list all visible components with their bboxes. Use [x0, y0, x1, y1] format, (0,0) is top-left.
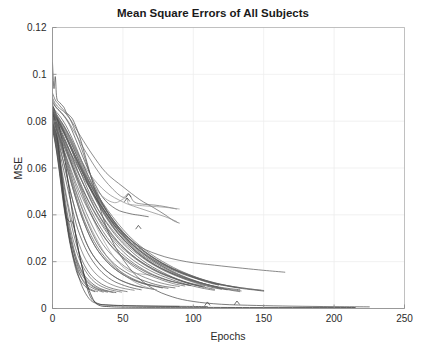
x-tick-label: 0	[50, 313, 56, 324]
page-title: Mean Square Errors of All Subjects	[117, 7, 309, 19]
x-tick-label: 200	[326, 313, 343, 324]
y-tick-label: 0.06	[27, 163, 47, 174]
x-tick-label: 150	[255, 313, 272, 324]
x-tick-label: 50	[117, 313, 129, 324]
x-tick-label: 100	[185, 313, 202, 324]
mse-line-chart: 050100150200250 00.020.040.060.080.10.12…	[0, 0, 427, 358]
chart-screenshot: 050100150200250 00.020.040.060.080.10.12…	[0, 0, 427, 358]
x-axis-label: Epochs	[210, 330, 245, 342]
y-tick-label: 0.12	[27, 22, 47, 33]
y-tick-label: 0.02	[27, 256, 47, 267]
chart-background	[0, 0, 427, 358]
y-tick-label: 0.04	[27, 209, 47, 220]
y-tick-label: 0	[41, 303, 47, 314]
y-tick-label: 0.08	[27, 116, 47, 127]
y-axis-label: MSE	[12, 157, 24, 180]
x-tick-label: 250	[396, 313, 413, 324]
y-tick-label: 0.1	[33, 69, 47, 80]
